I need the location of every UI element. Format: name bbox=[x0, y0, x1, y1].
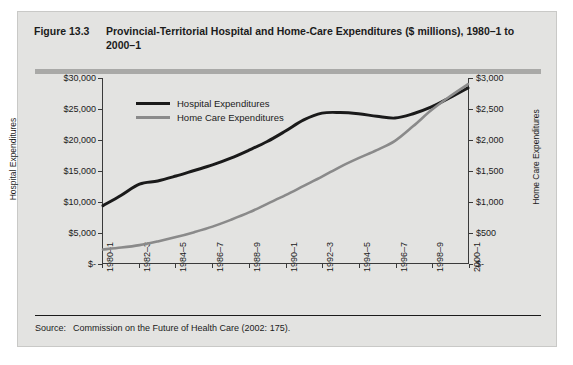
legend-item: Home Care Expenditures bbox=[136, 112, 284, 123]
x-tick-mark bbox=[139, 264, 140, 268]
right-tick-label: $500 bbox=[476, 229, 496, 238]
x-tick-mark bbox=[102, 264, 103, 268]
legend-label-home-care: Home Care Expenditures bbox=[177, 112, 284, 123]
x-tick-mark bbox=[359, 264, 360, 268]
right-tick-mark bbox=[469, 202, 473, 203]
figure-header: Figure 13.3 Provincial-Territorial Hospi… bbox=[18, 12, 556, 52]
left-tick-label: $30,000 bbox=[44, 74, 96, 83]
left-tick-label: $20,000 bbox=[44, 136, 96, 145]
x-tick-mark bbox=[249, 264, 250, 268]
legend-item: Hospital Expenditures bbox=[136, 98, 284, 109]
left-tick-label: $- bbox=[44, 260, 96, 269]
right-tick-mark bbox=[469, 171, 473, 172]
left-tick-label: $15,000 bbox=[44, 167, 96, 176]
x-tick-mark bbox=[286, 264, 287, 268]
figure-container: Figure 13.3 Provincial-Territorial Hospi… bbox=[17, 11, 557, 347]
right-tick-mark bbox=[469, 109, 473, 110]
right-tick-label: $2,500 bbox=[476, 105, 504, 114]
legend-label-hospital: Hospital Expenditures bbox=[177, 98, 269, 109]
right-axis-title: Home Care Expenditures bbox=[531, 109, 541, 204]
source-note: Source:Commission on the Future of Healt… bbox=[35, 323, 290, 333]
left-tick-label: $25,000 bbox=[44, 105, 96, 114]
source-text: Commission on the Future of Health Care … bbox=[73, 323, 290, 333]
right-tick-label: $1,000 bbox=[476, 198, 504, 207]
x-tick-mark bbox=[212, 264, 213, 268]
figure-number: Figure 13.3 bbox=[34, 24, 106, 38]
x-tick-mark bbox=[469, 264, 470, 268]
left-tick-label: $10,000 bbox=[44, 198, 96, 207]
x-tick-mark bbox=[432, 264, 433, 268]
right-tick-label: $2,000 bbox=[476, 136, 504, 145]
x-tick-mark bbox=[396, 264, 397, 268]
right-tick-mark bbox=[469, 78, 473, 79]
legend-swatch-home-care bbox=[136, 116, 170, 119]
left-tick-label: $5,000 bbox=[44, 229, 96, 238]
chart-legend: Hospital Expenditures Home Care Expendit… bbox=[136, 98, 284, 126]
right-tick-mark bbox=[469, 140, 473, 141]
x-tick-mark bbox=[322, 264, 323, 268]
right-tick-label: $1,500 bbox=[476, 167, 504, 176]
legend-swatch-hospital bbox=[136, 102, 170, 106]
x-tick-label: 2000–1 bbox=[473, 242, 482, 272]
right-tick-label: $3,000 bbox=[476, 74, 504, 83]
figure-title: Provincial-Territorial Hospital and Home… bbox=[106, 24, 526, 52]
left-axis-title: Hospital Expenditures bbox=[8, 118, 18, 201]
x-tick-mark bbox=[175, 264, 176, 268]
source-label: Source: bbox=[35, 323, 66, 333]
footer-divider bbox=[35, 315, 541, 316]
right-tick-mark bbox=[469, 233, 473, 234]
chart-area: Hospital Expenditures Home Care Expendit… bbox=[18, 74, 558, 309]
